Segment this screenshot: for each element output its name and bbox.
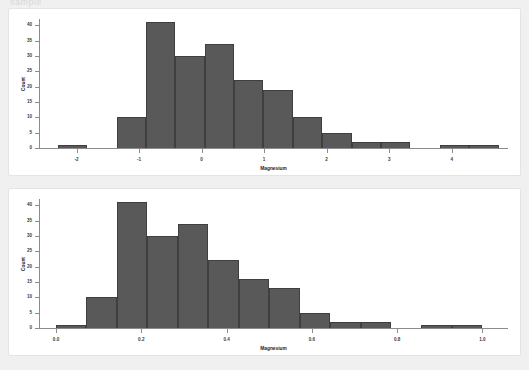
- x-axis-tick: [227, 329, 228, 333]
- histogram-bar: [440, 145, 469, 148]
- x-axis-label: Magnesium: [260, 346, 286, 351]
- x-axis-tick: [327, 149, 328, 153]
- y-axis-tick: 35: [35, 221, 39, 222]
- x-axis-tick: [452, 149, 453, 153]
- x-axis-tick-label: 1: [263, 157, 266, 162]
- y-axis-tick: 20: [35, 87, 39, 88]
- x-axis-tick: [312, 329, 313, 333]
- plot-area-standardized: Count Magnesium 0510152025303540-2-10123…: [39, 19, 508, 149]
- histogram-bar: [86, 297, 116, 328]
- x-axis-tick-label: 0: [200, 157, 203, 162]
- plot-area-normalized: Count Magnesium 05101520253035400.00.20.…: [39, 199, 508, 329]
- histogram-bar: [421, 325, 451, 328]
- y-axis-tick-label: 5: [29, 309, 32, 317]
- x-axis-tick-label: 0.4: [223, 337, 229, 342]
- x-axis-tick: [202, 149, 203, 153]
- y-axis-tick: 35: [35, 41, 39, 42]
- x-axis-tick: [77, 149, 78, 153]
- y-axis-tick: 40: [35, 205, 39, 206]
- x-axis-tick: [389, 149, 390, 153]
- y-axis-tick: 15: [35, 102, 39, 103]
- histogram-bar: [293, 117, 322, 148]
- x-axis-line: [39, 328, 508, 329]
- x-axis-line: [39, 148, 508, 149]
- y-axis-tick-label: 20: [27, 83, 32, 91]
- page-root: sample Count Magnesium 0510152025303540-…: [0, 0, 529, 370]
- histogram-bar: [58, 145, 87, 148]
- x-axis-tick: [56, 329, 57, 333]
- y-axis-tick: 25: [35, 71, 39, 72]
- histogram-bar: [205, 44, 234, 148]
- x-axis-tick-label: 0.0: [53, 337, 59, 342]
- x-axis-tick-label: -1: [137, 157, 141, 162]
- histogram-bar: [234, 80, 263, 148]
- y-axis-tick: 15: [35, 282, 39, 283]
- histogram-bar: [300, 313, 330, 328]
- histogram-bar: [146, 22, 175, 148]
- x-axis-tick-label: 3: [388, 157, 391, 162]
- y-axis-tick: 40: [35, 25, 39, 26]
- histogram-bar: [147, 236, 177, 328]
- y-axis-tick-label: 35: [27, 217, 32, 225]
- y-axis-tick: 5: [35, 313, 39, 314]
- histogram-figure-standardized: Count Magnesium 0510152025303540-2-10123…: [9, 9, 520, 175]
- y-axis-tick-label: 40: [27, 201, 32, 209]
- y-axis-tick-label: 30: [27, 52, 32, 60]
- x-axis-tick: [139, 149, 140, 153]
- y-axis-line: [39, 19, 40, 149]
- x-axis-tick: [397, 329, 398, 333]
- y-axis-label: Count: [21, 257, 26, 271]
- y-axis-tick: 30: [35, 56, 39, 57]
- histogram-bar: [117, 117, 146, 148]
- y-axis-tick-label: 35: [27, 37, 32, 45]
- x-axis-tick-label: 1.0: [479, 337, 485, 342]
- x-axis-tick-label: -2: [74, 157, 78, 162]
- histogram-bar: [352, 142, 381, 148]
- histogram-bar: [239, 279, 269, 328]
- histogram-bar: [330, 322, 360, 328]
- histogram-figure-normalized: Count Magnesium 05101520253035400.00.20.…: [9, 189, 520, 355]
- y-axis-line: [39, 199, 40, 329]
- histogram-bar: [178, 224, 208, 328]
- y-axis-tick-label: 10: [27, 293, 32, 301]
- y-axis-tick: 0: [35, 148, 39, 149]
- histogram-bar: [269, 288, 299, 328]
- histogram-bar: [469, 145, 498, 148]
- x-axis-tick-label: 4: [450, 157, 453, 162]
- histogram-bar: [452, 325, 482, 328]
- x-axis-tick: [482, 329, 483, 333]
- y-axis-tick-label: 30: [27, 232, 32, 240]
- chart-card-standardized: Count Magnesium 0510152025303540-2-10123…: [8, 8, 521, 176]
- y-axis-tick-label: 0: [29, 324, 32, 332]
- y-axis-tick: 20: [35, 267, 39, 268]
- y-axis-tick-label: 0: [29, 144, 32, 152]
- x-axis-tick: [264, 149, 265, 153]
- y-axis-tick: 0: [35, 328, 39, 329]
- y-axis-tick: 10: [35, 117, 39, 118]
- x-axis-label: Magnesium: [260, 166, 286, 171]
- y-axis-tick: 25: [35, 251, 39, 252]
- x-axis-tick-label: 2: [325, 157, 328, 162]
- x-axis-tick-label: 0.6: [309, 337, 315, 342]
- y-axis-tick: 10: [35, 297, 39, 298]
- histogram-bar: [56, 325, 86, 328]
- y-axis-tick-label: 25: [27, 67, 32, 75]
- y-axis-label: Count: [21, 77, 26, 91]
- y-axis-tick-label: 5: [29, 129, 32, 137]
- partial-header-text: sample: [10, 0, 42, 7]
- histogram-bar: [263, 90, 292, 148]
- histogram-bar: [381, 142, 410, 148]
- y-axis-tick: 30: [35, 236, 39, 237]
- y-axis-tick: 5: [35, 133, 39, 134]
- y-axis-tick-label: 20: [27, 263, 32, 271]
- y-axis-tick-label: 40: [27, 21, 32, 29]
- histogram-bar: [322, 133, 351, 148]
- x-axis-tick-label: 0.2: [138, 337, 144, 342]
- histogram-bar: [117, 202, 147, 328]
- histogram-bar: [361, 322, 391, 328]
- y-axis-tick-label: 10: [27, 113, 32, 121]
- histogram-bar: [175, 56, 204, 148]
- chart-card-normalized: Count Magnesium 05101520253035400.00.20.…: [8, 188, 521, 356]
- y-axis-tick-label: 25: [27, 247, 32, 255]
- y-axis-tick-label: 15: [27, 278, 32, 286]
